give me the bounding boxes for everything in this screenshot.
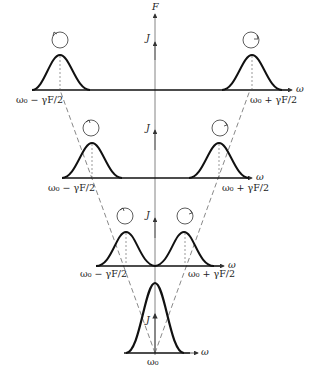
field-axis-label: F — [152, 2, 159, 12]
tier4-center-label: ω₀ — [147, 357, 159, 367]
left-dashed-line — [60, 90, 155, 353]
right-dashed-line — [155, 90, 250, 353]
tier3-right-label: ω₀ + γF/2 — [188, 269, 235, 279]
j-label-1: J — [146, 33, 150, 43]
splitting-diagram: F J J J J ω ω ω ω ω₀ − γF/2 ω₀ + γF/2 ω₀… — [0, 0, 313, 377]
omega-axis-label-2: ω — [256, 172, 264, 182]
omega-axis-label-1: ω — [296, 84, 304, 94]
j-label-2: J — [146, 123, 150, 133]
tier2-left-label: ω₀ − γF/2 — [48, 183, 95, 193]
tier2-right-label: ω₀ + γF/2 — [222, 183, 269, 193]
tier1-left-label: ω₀ − γF/2 — [16, 95, 63, 105]
j-label-3: J — [146, 210, 150, 220]
omega-axis-label-4: ω — [201, 347, 209, 357]
j-label-4: J — [146, 315, 150, 325]
tier3-left-label: ω₀ − γF/2 — [80, 269, 127, 279]
tier1-right-label: ω₀ + γF/2 — [250, 95, 297, 105]
